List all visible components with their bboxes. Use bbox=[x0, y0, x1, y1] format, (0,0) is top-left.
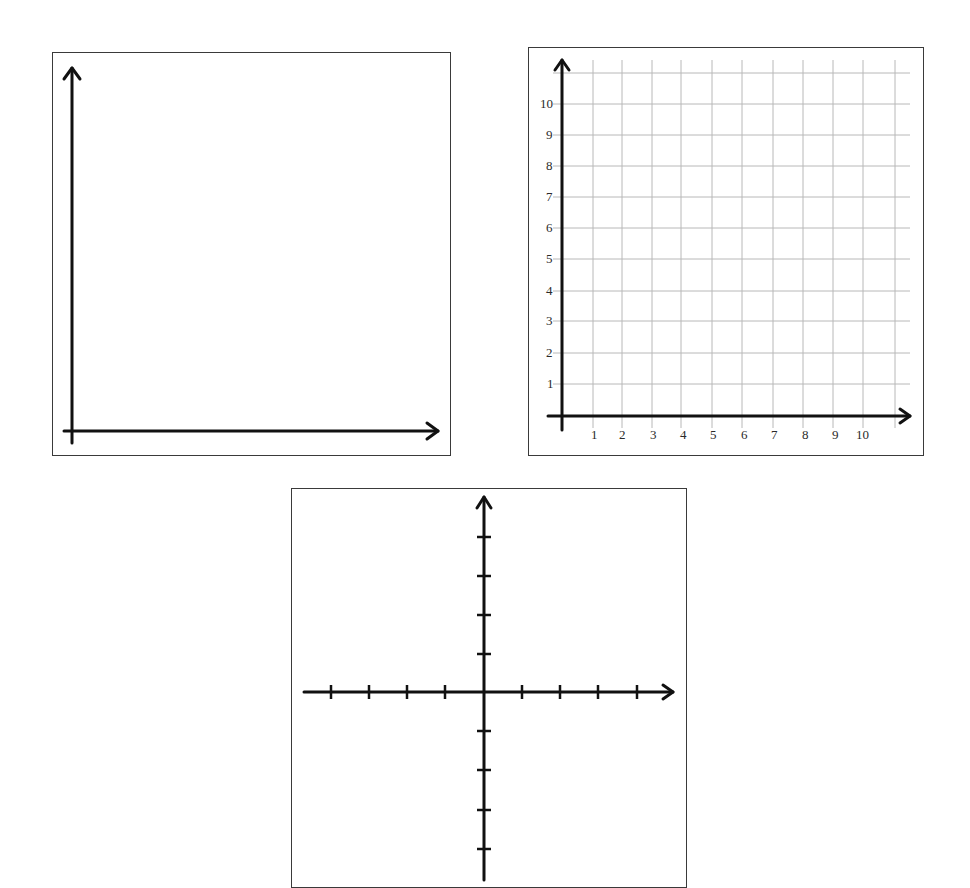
y-tick-label: 9 bbox=[546, 128, 553, 141]
blank-axes bbox=[64, 68, 438, 443]
y-tick-label: 10 bbox=[540, 97, 553, 110]
x-tick-label: 5 bbox=[710, 428, 717, 441]
y-tick-label: 7 bbox=[546, 190, 553, 203]
x-tick-label: 8 bbox=[802, 428, 809, 441]
y-tick-label: 6 bbox=[546, 221, 553, 234]
x-tick-label: 1 bbox=[591, 428, 598, 441]
grid-axes bbox=[548, 60, 910, 430]
y-tick-label: 2 bbox=[546, 346, 553, 359]
y-tick-label: 4 bbox=[546, 284, 553, 297]
x-tick-label: 7 bbox=[771, 428, 778, 441]
y-tick-label: 3 bbox=[546, 314, 553, 327]
x-tick-label: 4 bbox=[680, 428, 687, 441]
y-tick-label: 1 bbox=[547, 377, 554, 390]
y-tick-label: 8 bbox=[546, 159, 553, 172]
x-tick-label: 2 bbox=[619, 428, 626, 441]
y-tick-label: 5 bbox=[546, 252, 553, 265]
x-tick-label: 3 bbox=[650, 428, 657, 441]
grid-lines bbox=[553, 60, 910, 428]
x-tick-label: 10 bbox=[856, 428, 869, 441]
four-quadrant-axes bbox=[304, 497, 673, 880]
x-tick-label: 6 bbox=[741, 428, 748, 441]
x-tick-label: 9 bbox=[832, 428, 839, 441]
